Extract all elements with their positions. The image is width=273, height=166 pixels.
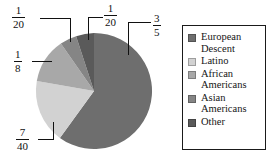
callout-other-numerator: 1 [104,3,117,14]
callout-european-numerator: 3 [153,13,161,24]
callout-european-denominator: 5 [153,27,161,38]
callout-african-americans: 1 8 [14,49,22,74]
leader-line-asian [40,18,70,42]
callout-asian-denominator: 20 [12,19,25,30]
legend-label-line1: Asian [201,92,226,103]
callout-european-descent: 3 5 [153,13,161,38]
legend-label-line1: Other [201,116,225,127]
callout-latino: 7 40 [16,127,29,152]
chart-legend: European Descent Latino African American… [182,25,266,150]
legend-label-line2: Americans [201,103,246,115]
legend-label-line1: African [201,68,233,79]
legend-label-other: Other [201,116,225,128]
legend-swatch-icon [188,119,196,127]
legend-swatch-icon [188,95,196,103]
legend-item-asian-americans: Asian Americans [188,92,261,115]
legend-label-african-americans: African Americans [201,68,246,91]
callout-other-denominator: 20 [104,17,117,28]
callout-african-numerator: 1 [14,49,22,60]
leader-line-latino [38,122,53,139]
legend-label-line2: Descent [201,43,241,55]
legend-label-european-descent: European Descent [201,31,241,54]
legend-item-latino: Latino [188,55,261,67]
legend-swatch-icon [188,71,196,79]
callout-asian-numerator: 1 [12,5,25,16]
callout-other: 1 20 [104,3,117,28]
leader-line-other [88,17,103,40]
legend-swatch-icon [188,58,196,66]
legend-item-european-descent: European Descent [188,31,261,54]
callout-latino-numerator: 7 [16,127,29,138]
legend-label-asian-americans: Asian Americans [201,92,246,115]
callout-latino-denominator: 40 [16,141,29,152]
pie-chart-figure: 3 5 1 20 1 20 1 8 7 40 European Descent [0,0,273,166]
legend-label-line1: European [201,31,241,42]
legend-label-line2: Americans [201,79,246,91]
callout-asian-americans: 1 20 [12,5,25,30]
legend-label-line1: Latino [201,55,228,66]
legend-item-other: Other [188,116,261,128]
callout-african-denominator: 8 [14,63,22,74]
legend-label-latino: Latino [201,55,228,67]
legend-item-african-americans: African Americans [188,68,261,91]
legend-swatch-icon [188,34,196,42]
